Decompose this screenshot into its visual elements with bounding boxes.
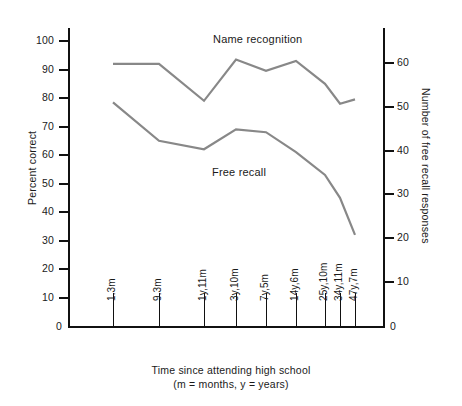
series-label-name-recognition: Name recognition bbox=[213, 33, 302, 45]
x-axis-title-line1: Time since attending high school bbox=[0, 364, 462, 376]
x-axis-title-line2: (m = months, y = years) bbox=[0, 378, 462, 390]
x-tick-label: 25y,10m bbox=[318, 263, 329, 301]
x-tick-label: 1.3m bbox=[106, 278, 117, 301]
x-tick-label: 14y,6m bbox=[289, 268, 300, 301]
y-axis-left-zero-label: 0 bbox=[56, 320, 62, 332]
x-tick-label: 34y,11m bbox=[333, 263, 344, 301]
x-tick-label: 3y,10m bbox=[229, 268, 240, 301]
series-label-free-recall: Free recall bbox=[212, 166, 266, 178]
series-line-name-recognition bbox=[113, 60, 355, 104]
plot-area bbox=[0, 0, 462, 406]
y-axis-right-zero-label: 0 bbox=[390, 320, 396, 332]
x-tick-label: 7y,5m bbox=[259, 274, 270, 301]
x-tick-label: 9.3m bbox=[152, 278, 163, 301]
chart-figure: 102030405060708090100 102030405060 Perce… bbox=[0, 0, 462, 406]
x-tick-label: 1y,11m bbox=[197, 269, 208, 301]
x-tick-label: 47y,7m bbox=[348, 268, 359, 301]
